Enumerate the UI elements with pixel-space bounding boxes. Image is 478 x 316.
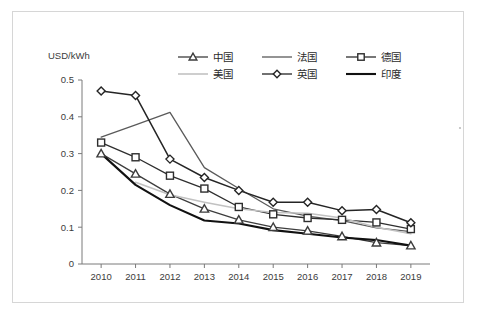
- diamond-marker: [166, 155, 174, 163]
- series-line: [101, 112, 411, 231]
- diamond-marker: [372, 206, 380, 214]
- legend-item-印度[interactable]: 印度: [346, 68, 402, 80]
- x-axis-ticks: 2010201120122013201420152016201720182019: [91, 264, 422, 282]
- legend-item-德国[interactable]: 德国: [346, 51, 401, 63]
- x-axis-tick-label: 2019: [400, 271, 421, 282]
- x-axis-tick-label: 2017: [331, 271, 352, 282]
- diamond-marker: [132, 91, 140, 99]
- line-chart: USD/kWh 中国法国德国美国英国印度 00.10.20.30.40.5 20…: [0, 0, 478, 316]
- legend-label: 法国: [297, 51, 317, 63]
- legend-item-中国[interactable]: 中国: [178, 51, 233, 63]
- x-axis-tick-label: 2015: [263, 271, 284, 282]
- triangle-marker: [131, 170, 139, 177]
- series-5: [101, 154, 411, 246]
- diamond-marker: [273, 70, 280, 77]
- y-axis-tick-label: 0.1: [61, 222, 74, 233]
- x-axis-tick-label: 2016: [297, 271, 318, 282]
- square-marker: [270, 211, 277, 218]
- square-marker: [98, 139, 105, 146]
- x-axis-tick-label: 2013: [194, 271, 215, 282]
- x-axis-tick-label: 2012: [159, 271, 180, 282]
- series-4-markers: [97, 87, 415, 227]
- square-marker: [201, 185, 208, 192]
- square-marker: [132, 154, 139, 161]
- square-marker: [166, 172, 173, 179]
- y-axis-unit-label: USD/kWh: [48, 50, 90, 61]
- chart-legend: 中国法国德国美国英国印度: [178, 51, 402, 80]
- legend-label: 英国: [297, 68, 317, 80]
- series-1: [101, 112, 411, 231]
- y-axis-tick-label: 0.2: [61, 185, 74, 196]
- diamond-marker: [269, 198, 277, 206]
- legend-label: 美国: [213, 68, 233, 80]
- y-axis-tick-label: 0.3: [61, 148, 74, 159]
- square-marker: [339, 216, 346, 223]
- x-axis-tick-label: 2011: [125, 271, 145, 282]
- x-axis-tick-label: 2010: [91, 271, 112, 282]
- square-marker: [358, 54, 364, 60]
- triangle-marker: [189, 53, 197, 60]
- diamond-marker: [97, 87, 105, 95]
- triangle-marker: [97, 149, 105, 156]
- legend-item-英国[interactable]: 英国: [262, 68, 317, 80]
- legend-label: 德国: [381, 51, 401, 63]
- diamond-marker: [200, 174, 208, 182]
- series-line: [101, 91, 411, 223]
- square-marker: [304, 215, 311, 222]
- diamond-marker: [338, 207, 346, 215]
- x-axis-tick-label: 2018: [366, 271, 387, 282]
- square-marker: [235, 203, 242, 210]
- legend-item-法国[interactable]: 法国: [262, 51, 317, 63]
- series-4: [101, 91, 411, 223]
- series-0: [101, 154, 411, 246]
- legend-item-美国[interactable]: 美国: [178, 68, 233, 80]
- triangle-marker: [200, 205, 208, 212]
- y-axis-ticks: 00.10.20.30.40.5: [61, 74, 82, 269]
- chart-series-container: [97, 87, 415, 249]
- series-line: [101, 154, 411, 246]
- diamond-marker: [304, 198, 312, 206]
- legend-label: 中国: [213, 51, 233, 63]
- y-axis-tick-label: 0.5: [61, 74, 74, 85]
- series-2: [101, 143, 411, 229]
- series-line: [101, 154, 411, 246]
- y-axis-tick-label: 0: [69, 258, 74, 269]
- legend-label: 印度: [381, 68, 402, 80]
- x-axis-tick-label: 2014: [228, 271, 249, 282]
- y-axis-tick-label: 0.4: [61, 111, 74, 122]
- square-marker: [373, 219, 380, 226]
- series-line: [101, 143, 411, 229]
- page-speck-artifact: [459, 127, 461, 129]
